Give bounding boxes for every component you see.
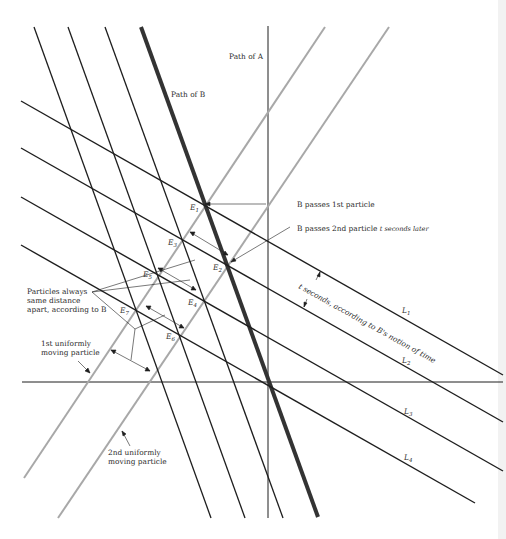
particle-2-worldline: [58, 27, 389, 518]
label-l1: L1: [401, 306, 410, 316]
event-e3: E3: [167, 238, 177, 248]
diagram-canvas: Path of A Path of B B passes 1st particl…: [0, 0, 506, 539]
label-l4: L4: [403, 453, 413, 463]
parallel-line-3: [105, 27, 283, 518]
spacetime-diagram: Path of A Path of B B passes 1st particl…: [0, 0, 506, 539]
first-particle-label-1: 1st uniformly: [41, 339, 92, 348]
line-l4: [21, 245, 475, 503]
particles-note-line3: apart, according to B: [27, 305, 107, 314]
parallel-line-1: [34, 27, 211, 518]
event-e6: E6: [165, 332, 175, 342]
event-e7: E7: [119, 306, 129, 316]
first-particle-label-2: moving particle: [41, 348, 100, 357]
t-seconds-note: t seconds, according to B's notion of ti…: [297, 282, 438, 366]
particles-note-line2: same distance: [27, 296, 80, 305]
event-e1: E1: [189, 203, 199, 213]
distance-arrows: [78, 202, 320, 446]
event-e2: E2: [212, 263, 222, 273]
line-l2: [21, 148, 503, 422]
path-a-label: Path of A: [229, 52, 264, 61]
label-l3: L3: [403, 407, 413, 417]
particles-note-line1: Particles always: [27, 287, 88, 296]
event-e4: E4: [187, 298, 197, 308]
b-passes-1st-label: B passes 1st particle: [297, 200, 375, 209]
path-b-label: Path of B: [171, 90, 205, 99]
path-b-line: [141, 27, 318, 517]
label-l2: L2: [401, 356, 411, 366]
b-passes-2nd-label: B passes 2nd particle t seconds later: [297, 224, 429, 233]
second-particle-label-1: 2nd uniformly: [108, 448, 162, 457]
second-particle-label-2: moving particle: [108, 457, 167, 466]
